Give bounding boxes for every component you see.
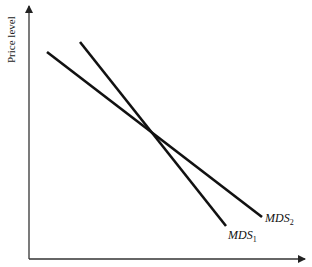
y-axis-label: Price level [2,5,20,75]
mds1-label-name: MDS [228,228,253,242]
mds2-label-subscript: 2 [290,218,294,227]
mds2-label: MDS2 [265,211,294,227]
mds2-curve [47,52,262,217]
mds2-label-name: MDS [265,211,290,225]
y-axis-label-text: Price level [5,16,17,63]
mds1-label-subscript: 1 [253,235,257,244]
mds1-label: MDS1 [228,228,257,244]
